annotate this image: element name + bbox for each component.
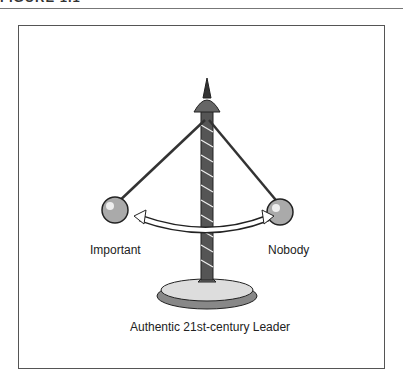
right-label: Nobody <box>268 243 309 257</box>
figure-caption: Authentic 21st-century Leader <box>130 320 290 334</box>
left-label: Important <box>90 243 141 257</box>
